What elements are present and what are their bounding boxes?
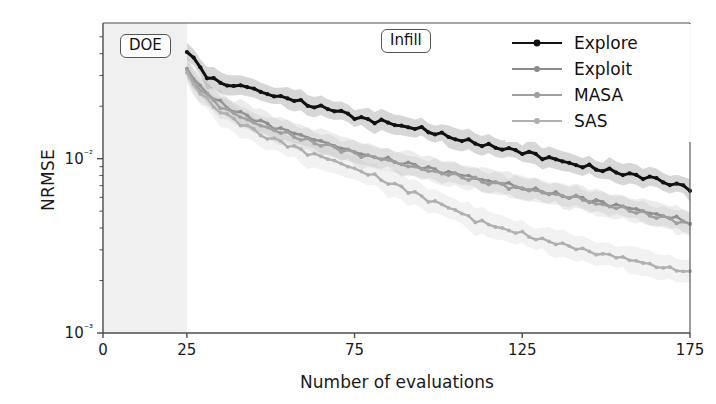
data-point <box>534 238 538 242</box>
data-point <box>333 159 337 163</box>
data-point <box>426 130 430 134</box>
data-point <box>594 253 598 257</box>
data-point <box>312 105 316 109</box>
legend-marker-explore <box>509 36 565 50</box>
data-point <box>554 157 558 161</box>
data-point <box>574 163 578 167</box>
legend-label: MASA <box>565 85 623 105</box>
data-point <box>225 84 229 88</box>
data-point <box>500 182 504 186</box>
data-point <box>487 142 491 146</box>
legend-label: SAS <box>565 111 608 131</box>
data-point <box>185 50 189 54</box>
data-point <box>547 192 551 196</box>
data-point <box>326 157 330 161</box>
data-point <box>332 109 336 113</box>
data-point <box>460 212 464 216</box>
data-point <box>560 159 564 163</box>
data-point <box>514 185 518 189</box>
data-point <box>433 169 437 173</box>
data-point <box>681 220 685 224</box>
x-tick-label: 25 <box>157 341 217 359</box>
data-point <box>554 243 558 247</box>
data-point <box>299 147 303 151</box>
data-point <box>594 202 598 206</box>
data-point <box>373 155 377 159</box>
data-point <box>487 223 491 227</box>
data-point <box>634 259 638 263</box>
data-point <box>675 182 679 186</box>
data-point <box>427 169 431 173</box>
data-point <box>621 173 625 177</box>
data-point <box>339 162 343 166</box>
data-point <box>198 65 202 69</box>
data-point <box>668 265 672 269</box>
data-point <box>245 85 249 89</box>
data-point <box>527 150 531 154</box>
data-point <box>420 167 424 171</box>
data-point <box>413 190 417 194</box>
data-point <box>520 230 524 234</box>
data-point <box>467 178 471 182</box>
data-point <box>272 94 276 98</box>
data-point <box>299 98 303 102</box>
data-point <box>561 241 565 245</box>
data-point <box>594 168 598 172</box>
data-point <box>413 165 417 169</box>
legend-item-sas: SAS <box>509 108 687 134</box>
data-point <box>675 269 679 273</box>
data-point <box>265 92 269 96</box>
data-point <box>252 127 256 131</box>
data-point <box>292 99 296 103</box>
data-point <box>406 165 410 169</box>
figure-canvas: NRMSE Number of evaluations 10⁻²10⁻³0257… <box>0 0 716 404</box>
data-point <box>252 87 256 91</box>
data-point <box>406 191 410 195</box>
data-point <box>400 162 404 166</box>
data-point <box>447 173 451 177</box>
data-point <box>225 112 229 116</box>
data-point <box>467 137 471 141</box>
y-axis-label: NRMSE <box>38 110 58 250</box>
data-point <box>219 111 223 115</box>
data-point <box>540 157 544 161</box>
data-point <box>574 248 578 252</box>
data-point <box>480 219 484 223</box>
chart-figure: NRMSE Number of evaluations 10⁻²10⁻³0257… <box>0 0 716 404</box>
data-point <box>359 155 363 159</box>
data-point <box>386 121 390 125</box>
data-point <box>319 155 323 159</box>
legend-marker-sas <box>509 114 565 128</box>
data-point <box>621 204 625 208</box>
data-point <box>520 152 524 156</box>
y-tick-label: 10⁻² <box>65 149 93 168</box>
data-point <box>601 252 605 256</box>
infill-box: Infill <box>381 29 431 53</box>
data-point <box>628 171 632 175</box>
data-point <box>286 145 290 149</box>
data-point <box>581 198 585 202</box>
data-point <box>480 144 484 148</box>
data-point <box>614 171 618 175</box>
data-point <box>279 139 283 143</box>
data-point <box>473 176 477 180</box>
data-point <box>413 127 417 131</box>
data-point <box>520 186 524 190</box>
data-point <box>507 229 511 233</box>
data-point <box>514 148 518 152</box>
data-point <box>326 107 330 111</box>
data-point <box>238 83 242 87</box>
data-point <box>608 204 612 208</box>
data-point <box>386 158 390 162</box>
data-point <box>460 176 464 180</box>
data-point <box>534 152 538 156</box>
data-point <box>581 246 585 250</box>
data-point <box>386 182 390 186</box>
legend-marker-exploit <box>509 62 565 76</box>
data-point <box>453 208 457 212</box>
data-point <box>567 161 571 165</box>
data-point <box>480 180 484 184</box>
data-point <box>453 172 457 176</box>
data-point <box>494 225 498 229</box>
data-point <box>353 166 357 170</box>
